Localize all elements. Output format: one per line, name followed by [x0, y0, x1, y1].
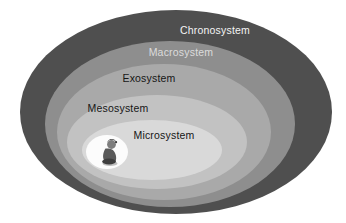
ecological-systems-diagram: Chronosystem Macrosystem Exosystem Mesos…	[0, 0, 346, 223]
ecological-systems-svg: Chronosystem Macrosystem Exosystem Mesos…	[0, 0, 346, 223]
child-cap-brim	[115, 141, 117, 143]
label-exosystem: Exosystem	[122, 72, 175, 84]
child-legs	[102, 159, 116, 165]
label-chronosystem: Chronosystem	[180, 24, 250, 36]
label-mesosystem: Mesosystem	[88, 102, 149, 114]
child-head	[107, 140, 116, 149]
label-macrosystem: Macrosystem	[149, 46, 214, 58]
label-microsystem: Microsystem	[133, 129, 194, 141]
